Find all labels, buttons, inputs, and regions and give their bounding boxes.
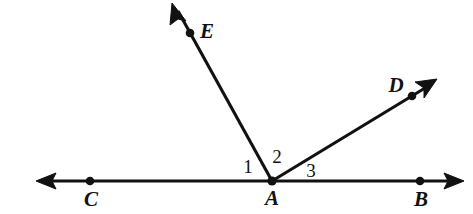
geometry-diagram-canvas: A B C D E 1 2 3 xyxy=(0,0,473,214)
point-label-A: A xyxy=(263,186,279,210)
angle-label-2: 2 xyxy=(272,146,282,167)
angle-label-1: 1 xyxy=(243,156,253,177)
point-dot-A xyxy=(267,176,276,185)
ray-ad xyxy=(272,85,430,181)
point-dot-B xyxy=(416,177,425,186)
geometry-figure: A B C D E 1 2 3 xyxy=(0,0,473,214)
point-dot-E xyxy=(186,29,195,38)
point-dot-D xyxy=(408,92,417,101)
point-label-C: C xyxy=(84,187,99,211)
point-label-B: B xyxy=(413,187,428,211)
angle-label-3: 3 xyxy=(306,160,316,181)
point-dot-C xyxy=(86,177,95,186)
point-label-E: E xyxy=(199,19,214,43)
point-label-D: D xyxy=(387,73,403,97)
arrowhead-ray-ad xyxy=(415,79,437,98)
